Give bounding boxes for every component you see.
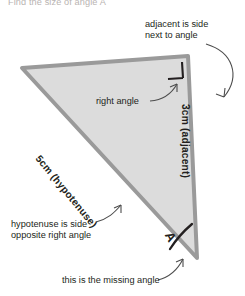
question-text: Find the size of angle A bbox=[8, 0, 106, 8]
adjacent-annotation-text: adjacent is side next to angle bbox=[145, 19, 208, 42]
diagram-canvas: Find the size of angle A adjacent is sid… bbox=[0, 0, 245, 296]
adjacent-leader-line bbox=[206, 44, 233, 97]
missing-angle-leader-line bbox=[158, 259, 183, 280]
missing-angle-annotation-text: this is the missing angle bbox=[62, 275, 160, 286]
adjacent-leader-arrow-icon bbox=[216, 88, 225, 97]
side-label-adjacent: 3cm (adjacent) bbox=[180, 104, 191, 178]
triangle-diagram-svg bbox=[0, 0, 245, 296]
hypotenuse-annotation-text: hypotenuse is side opposite right angle bbox=[11, 219, 91, 242]
hypotenuse-leader-line bbox=[96, 205, 121, 222]
right-angle-annotation-text: right angle bbox=[96, 96, 139, 107]
